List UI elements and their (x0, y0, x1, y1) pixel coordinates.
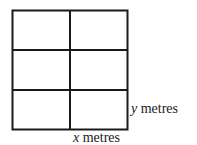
height-label: y metres (131, 102, 178, 116)
grid-diagram (0, 0, 197, 145)
height-unit: metres (141, 101, 178, 116)
height-variable: y (131, 101, 137, 116)
width-label: x metres (73, 131, 120, 145)
width-variable: x (73, 130, 79, 145)
width-unit: metres (83, 130, 120, 145)
